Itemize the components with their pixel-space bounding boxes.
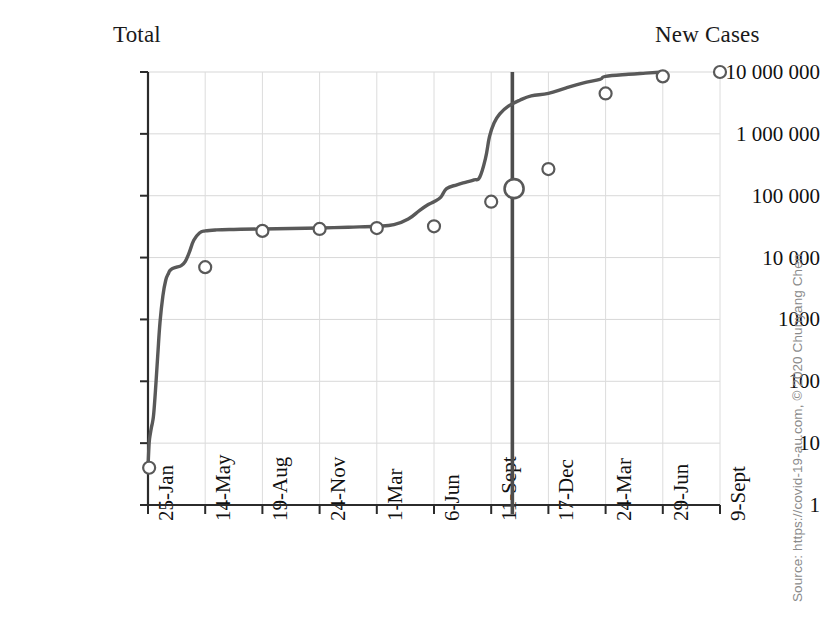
chart-title: COVID-19 World Total Cases xyxy=(0,0,832,4)
data-point-marker xyxy=(485,196,497,208)
chart-title-cutoff-region: COVID-19 World Total Cases xyxy=(0,0,832,4)
series-caption-total: Total xyxy=(113,22,161,48)
data-point-marker xyxy=(428,220,440,232)
plot-area xyxy=(148,72,720,505)
series-caption-new-cases: New Cases xyxy=(655,22,760,48)
plot-svg xyxy=(148,72,720,505)
series-markers-total xyxy=(143,66,726,474)
data-point-marker xyxy=(371,222,383,234)
data-point-marker xyxy=(143,462,155,474)
data-point-marker xyxy=(600,87,612,99)
data-point-marker xyxy=(199,261,211,273)
data-point-marker xyxy=(714,66,726,78)
data-point-marker xyxy=(542,163,554,175)
series-line-total xyxy=(148,72,663,468)
data-point-marker xyxy=(256,225,268,237)
axis-ticks xyxy=(140,72,720,514)
x-axis-tick-label: 9-Sept xyxy=(728,466,749,521)
vertical-gridlines xyxy=(148,72,720,505)
data-point-marker xyxy=(657,70,669,82)
chart-root: COVID-19 World Total Cases Total New Cas… xyxy=(0,0,832,625)
data-point-marker xyxy=(505,179,524,198)
data-point-marker xyxy=(314,223,326,235)
source-credit: Source: https://covid-19-au.com, © 2020 … xyxy=(790,254,805,602)
